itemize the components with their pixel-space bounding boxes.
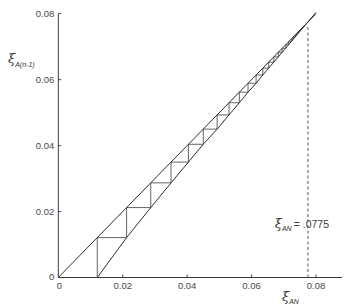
y-axis-label: ξA(n-1) xyxy=(8,51,35,69)
y-tick-label: 0.02 xyxy=(36,206,55,217)
x-axis-label-subscript: AN xyxy=(288,298,300,305)
operating-curve xyxy=(97,12,316,277)
chart: 00.020.040.060.0800.020.040.060.08 ξAN= … xyxy=(0,0,349,307)
diagonal-line xyxy=(58,14,316,278)
y-tick-label: 0 xyxy=(49,271,54,282)
x-tick-label: 0.02 xyxy=(113,280,132,291)
y-tick-label: 0.06 xyxy=(36,74,55,85)
annotation-subscript: AN xyxy=(281,225,293,232)
y-tick-label: 0.04 xyxy=(36,140,55,151)
annotation-value: = .0775 xyxy=(294,218,329,230)
annotation-label: ξAN= .0775 xyxy=(275,216,329,232)
y-axis-label-subscript: A(n-1) xyxy=(14,61,34,69)
x-axis-label: ξAN xyxy=(282,289,300,305)
y-tick-label: 0.08 xyxy=(36,8,55,19)
x-tick-label: 0 xyxy=(57,280,62,291)
x-tick-label: 0.06 xyxy=(242,280,261,291)
x-tick-label: 0.08 xyxy=(307,280,326,291)
x-tick-label: 0.04 xyxy=(178,280,197,291)
